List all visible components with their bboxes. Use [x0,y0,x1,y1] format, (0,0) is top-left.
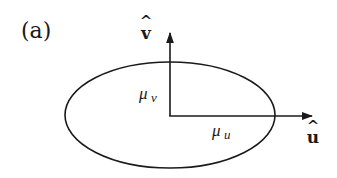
svg-text:u: u [307,127,319,147]
u-hat-label: ^ u [307,117,320,147]
svg-text:μ: μ [138,84,148,103]
mu-v-label: μ v [138,84,157,105]
svg-text:u: u [224,127,231,142]
panel-label: (a) [21,18,51,43]
v-hat-label: ^ v [140,12,153,43]
mu-u-label: μ u [211,121,231,142]
ellipse-diagram: (a) ^ v ^ u μ v μ u [0,0,337,178]
svg-text:μ: μ [211,121,221,140]
svg-text:v: v [151,90,157,105]
svg-text:v: v [140,23,152,43]
